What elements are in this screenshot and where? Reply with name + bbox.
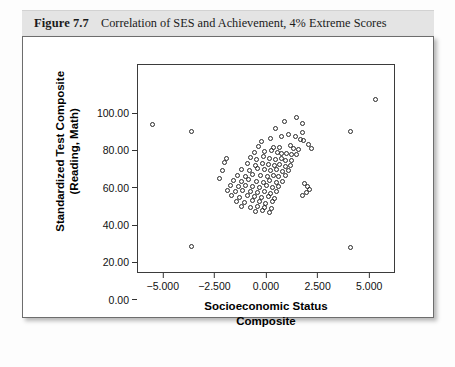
y-axis-title-wrap: Standardized Test Composite (Reading, Ma… — [23, 73, 67, 313]
data-point — [260, 208, 265, 213]
x-axis: Socioeconomic Status Composite −5.000−2.… — [137, 273, 395, 319]
data-point — [235, 173, 240, 178]
x-axis-tick-label: −2.500 — [198, 280, 230, 292]
y-axis: 0.0020.0040.0060.0080.00100.00 — [63, 73, 137, 355]
data-point — [229, 193, 234, 198]
data-point — [259, 139, 264, 144]
y-axis-tick-label: 80.00 — [103, 144, 129, 156]
data-point — [271, 173, 276, 178]
data-point — [189, 129, 194, 134]
y-axis-tick-label: 100.00 — [97, 107, 129, 119]
x-axis-tick: 2.500 — [304, 273, 330, 292]
data-point — [250, 198, 255, 203]
data-point — [267, 178, 272, 183]
x-axis-tick: 0.000 — [253, 273, 279, 292]
data-point — [294, 115, 299, 120]
data-point — [267, 210, 272, 215]
data-point — [280, 179, 285, 184]
x-axis-tick-mark — [317, 273, 318, 278]
data-point — [255, 204, 260, 209]
data-point — [288, 163, 293, 168]
data-point — [283, 173, 288, 178]
data-point — [150, 122, 155, 127]
data-point — [253, 209, 258, 214]
y-axis-tick-label: 0.00 — [109, 293, 129, 305]
data-point — [283, 158, 288, 163]
data-point — [300, 193, 305, 198]
y-axis-tick-label: 40.00 — [103, 219, 129, 231]
x-axis-title-line2: Composite — [236, 315, 295, 327]
data-point — [268, 136, 273, 141]
figure-caption-text: Correlation of SES and Achievement, 4% E… — [101, 16, 387, 31]
x-axis-tick-mark — [266, 273, 267, 278]
data-point — [252, 150, 257, 155]
data-point — [220, 168, 225, 173]
data-point — [245, 193, 250, 198]
data-point — [286, 132, 291, 137]
data-point — [261, 154, 266, 159]
data-point — [294, 152, 299, 157]
data-point — [300, 121, 305, 126]
x-axis-tick-mark — [162, 273, 163, 278]
data-point — [348, 245, 353, 250]
data-point — [279, 134, 284, 139]
x-axis-tick-label: 2.500 — [304, 280, 330, 292]
x-axis-tick: 5.000 — [356, 273, 382, 292]
data-point — [274, 167, 279, 172]
data-point — [286, 168, 291, 173]
data-point — [248, 155, 253, 160]
data-point — [240, 188, 245, 193]
x-axis-tick-label: −5.000 — [147, 280, 179, 292]
data-point — [289, 158, 294, 163]
data-point — [234, 199, 239, 204]
data-point — [262, 167, 267, 172]
figure-page: Figure 7.7 Correlation of SES and Achiev… — [0, 0, 455, 367]
figure-number-label: Figure 7.7 — [34, 16, 89, 31]
y-axis-tick-label: 20.00 — [103, 256, 129, 268]
x-axis-title-line1: Socioeconomic Status — [204, 300, 327, 312]
data-point — [250, 172, 255, 177]
data-point — [266, 194, 271, 199]
data-point — [267, 156, 272, 161]
x-axis-tick-label: 0.000 — [253, 280, 279, 292]
data-point — [260, 161, 265, 166]
x-axis-tick-mark — [214, 273, 215, 278]
data-point — [231, 178, 236, 183]
data-point — [239, 204, 244, 209]
data-point — [273, 126, 278, 131]
data-point — [248, 205, 253, 210]
scatter-plot-area — [137, 64, 395, 273]
x-axis-tick-label: 5.000 — [356, 280, 382, 292]
data-point — [224, 156, 229, 161]
data-point — [309, 146, 314, 151]
data-point — [246, 177, 251, 182]
x-axis-title: Socioeconomic Status Composite — [137, 299, 395, 329]
data-point — [243, 183, 248, 188]
data-point — [373, 97, 378, 102]
data-point — [255, 166, 260, 171]
data-point — [254, 157, 259, 162]
figure-card: Standardized Test Composite (Reading, Ma… — [22, 36, 434, 318]
data-point — [282, 119, 287, 124]
figure-caption-band: Figure 7.7 Correlation of SES and Achiev… — [22, 10, 434, 36]
x-axis-tick-mark — [369, 273, 370, 278]
data-point — [217, 176, 222, 181]
data-point — [254, 179, 259, 184]
data-point — [277, 162, 282, 167]
data-point — [239, 167, 244, 172]
data-point — [348, 129, 353, 134]
data-point — [262, 189, 267, 194]
y-axis-tick-label: 60.00 — [103, 181, 129, 193]
data-point — [274, 189, 279, 194]
data-point — [306, 142, 311, 147]
data-point — [264, 183, 269, 188]
data-point — [258, 173, 263, 178]
data-point — [189, 244, 194, 249]
data-point — [270, 199, 275, 204]
data-point — [266, 162, 271, 167]
data-point — [300, 130, 305, 135]
data-point — [269, 148, 274, 153]
x-axis-tick: −2.500 — [198, 273, 230, 292]
data-point — [245, 161, 250, 166]
data-point — [256, 144, 261, 149]
